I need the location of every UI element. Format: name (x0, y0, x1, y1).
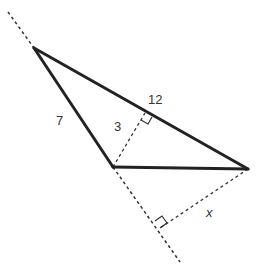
right-angle-marker-altitude-on-AC (141, 117, 152, 124)
triangle-diagram: 7 12 3 x (0, 0, 260, 270)
label-side-AC: 12 (148, 92, 162, 107)
side-AB (34, 48, 113, 167)
label-unknown-x: x (205, 205, 213, 220)
extended-line-AB-upper (8, 12, 34, 48)
extended-line-AB-lower (113, 167, 180, 262)
perpendicular-C-to-AB (160, 169, 248, 228)
label-altitude: 3 (114, 119, 121, 134)
side-AC (34, 48, 248, 169)
side-BC (113, 167, 248, 169)
label-side-AB: 7 (56, 113, 63, 128)
right-angle-marker-perpendicular-from-C (155, 216, 167, 228)
